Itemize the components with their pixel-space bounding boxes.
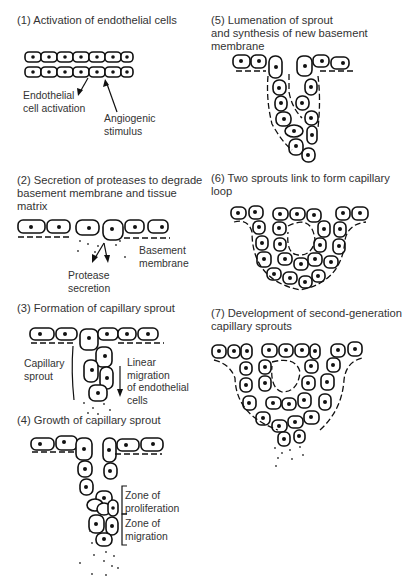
panel-7-second-generation [212, 342, 362, 467]
angiogenesis-diagram [0, 0, 402, 585]
panel-2-vessel [18, 220, 170, 263]
panel-6-capillary-loop [231, 206, 368, 290]
panel-5-lumen-sprout [233, 55, 355, 162]
panel-3-sprout [30, 328, 164, 415]
panel-1-vessel [25, 52, 133, 112]
panel-4-sprout [31, 436, 163, 576]
